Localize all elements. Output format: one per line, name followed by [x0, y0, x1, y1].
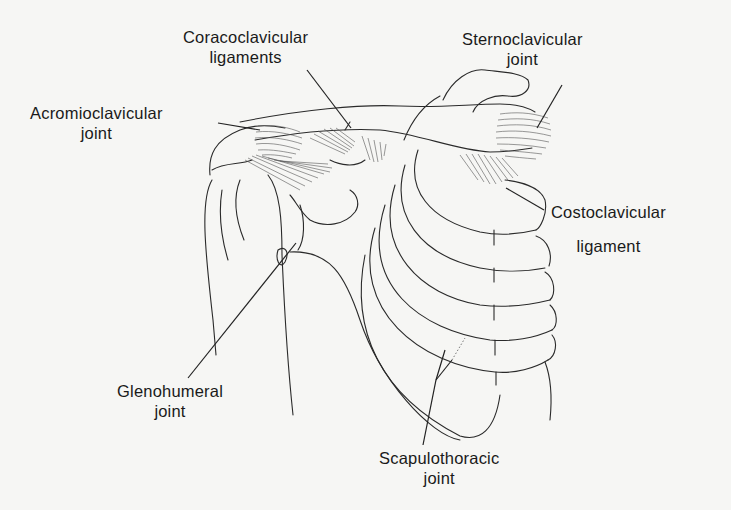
acromioclavicular-hatch — [255, 125, 302, 158]
costoclavicular-hatch — [460, 154, 518, 184]
label-glenohumeral-joint: Glenohumeral joint — [117, 381, 223, 421]
label-sternoclavicular-joint: Sternoclavicular joint — [462, 29, 583, 69]
rib-cage — [361, 150, 556, 437]
label-scapulothoracic-joint: Scapulothoracic joint — [379, 448, 499, 488]
humerus — [205, 175, 293, 415]
leader-sternoclavicular — [537, 85, 562, 128]
leader-lines — [188, 70, 562, 445]
coracoacromial-hatch — [245, 155, 332, 190]
coracoclavicular-hatch — [310, 128, 386, 162]
label-coracoclavicular-ligaments: Coracoclavicular ligaments — [183, 27, 308, 67]
leader-scapulothoracic — [423, 350, 445, 445]
sternoclavicular-hatch — [496, 113, 551, 159]
shoulder-joints-diagram: Coracoclavicular ligaments Sternoclavicu… — [0, 0, 731, 510]
label-acromioclavicular-joint: Acromioclavicular joint — [30, 103, 163, 143]
leader-glenohumeral — [188, 243, 296, 378]
label-costoclavicular-ligament: Costoclavicular ligament — [551, 195, 666, 263]
leader-coracoclavicular — [307, 70, 351, 128]
